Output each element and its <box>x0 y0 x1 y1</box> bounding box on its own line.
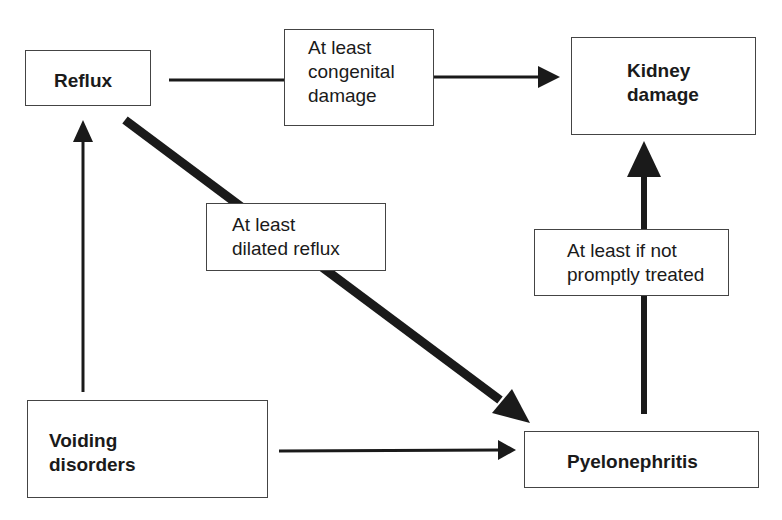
edge-label-dilated-reflux: At least dilated reflux <box>206 203 386 271</box>
node-kidney-damage-line2: damage <box>627 83 755 107</box>
edge-voiding-disorders-to-reflux <box>73 120 93 392</box>
node-reflux-label: Reflux <box>54 69 150 93</box>
edge-label-congenital-line1: At least <box>308 36 433 60</box>
edge-voiding-disorders-to-pyelonephritis <box>279 440 516 460</box>
node-kidney-damage-line1: Kidney <box>627 59 755 83</box>
edge-label-treated-line2: promptly treated <box>567 263 728 287</box>
node-kidney-damage: Kidney damage <box>571 37 756 135</box>
edge-label-congenital-damage: At least congenital damage <box>284 29 434 126</box>
arrowhead-icon <box>73 120 93 142</box>
node-reflux: Reflux <box>25 50 151 106</box>
node-pyelonephritis-label: Pyelonephritis <box>567 450 758 474</box>
edge-label-congenital-line3: damage <box>308 84 433 108</box>
edge-label-promptly-treated: At least if not promptly treated <box>534 229 729 296</box>
edge-label-congenital-line2: congenital <box>308 60 433 84</box>
arrowhead-icon <box>498 440 516 460</box>
node-voiding-disorders-line2: disorders <box>49 453 267 477</box>
edge-label-treated-line1: At least if not <box>567 239 728 263</box>
node-voiding-disorders: Voiding disorders <box>27 400 268 498</box>
arrowhead-icon <box>538 66 560 88</box>
edge-label-dilated-line2: dilated reflux <box>232 237 385 261</box>
node-pyelonephritis: Pyelonephritis <box>524 431 759 488</box>
edge-reflux-to-pyelonephritis <box>125 120 530 423</box>
edge-label-dilated-line1: At least <box>232 213 385 237</box>
node-voiding-disorders-line1: Voiding <box>49 429 267 453</box>
arrowhead-icon <box>627 141 661 177</box>
